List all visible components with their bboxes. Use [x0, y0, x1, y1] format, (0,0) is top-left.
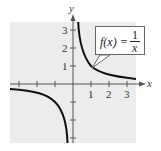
function-label-box: f(x) = 1 x [95, 26, 145, 55]
x-tick-label-3: 3 [124, 88, 130, 100]
x-tick-label-1: 1 [88, 88, 94, 100]
x-axis-arrow-icon [139, 82, 146, 87]
x-tick-label-2: 2 [106, 88, 112, 100]
y-tick-label-3: 3 [62, 24, 68, 36]
y-axis-label: y [69, 2, 74, 14]
function-lhs: f(x) = [100, 35, 128, 50]
y-tick-label-2: 2 [62, 42, 68, 54]
fraction-denominator: x [132, 41, 137, 56]
x-axis-label: x [147, 77, 152, 89]
y-axis-arrow-icon [71, 14, 76, 21]
y-tick-label-1: 1 [62, 60, 68, 72]
plot-area [0, 0, 161, 151]
